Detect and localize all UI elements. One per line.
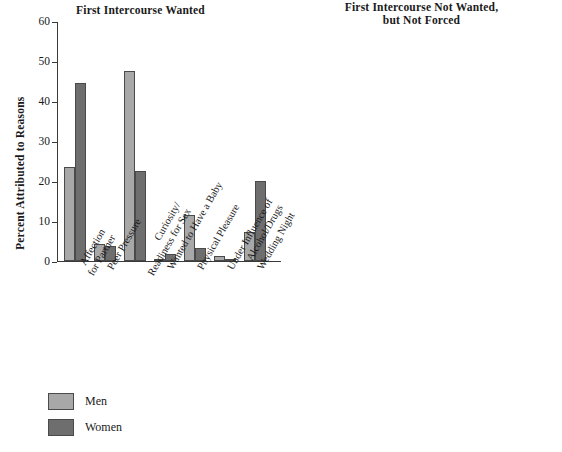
y-tick-mark	[52, 142, 57, 143]
y-tick-label: 20	[39, 176, 51, 188]
y-tick-mark	[52, 182, 57, 183]
y-tick-mark	[52, 262, 57, 263]
legend-label-women: Women	[85, 420, 122, 435]
y-tick-mark	[52, 62, 57, 63]
y-tick-label: 30	[39, 136, 51, 148]
legend-item-men: Men	[48, 388, 208, 414]
x-axis-category-labels-left: Affectionfor PartnerPeer PressureCuriosi…	[57, 266, 287, 376]
legend-label-men: Men	[85, 394, 107, 409]
legend-swatch-women	[48, 419, 74, 436]
y-tick-label: 50	[39, 56, 51, 68]
bar-women	[75, 83, 86, 261]
chart-panel-not-wanted: First Intercourse Not Wanted, but Not Fo…	[281, 0, 562, 400]
legend-item-women: Women	[48, 414, 208, 440]
y-axis-label-left: Percent Attributed to Reasons	[14, 97, 26, 250]
y-tick-label: 60	[39, 16, 51, 28]
legend-swatch-men	[48, 393, 74, 410]
y-tick-label: 0	[44, 256, 50, 268]
bar-men	[214, 256, 225, 261]
chart-title-right: First Intercourse Not Wanted, but Not Fo…	[281, 1, 562, 27]
chart-title-right-line1: First Intercourse Not Wanted,	[345, 1, 499, 13]
chart-panel-wanted: First Intercourse Wanted Percent Attribu…	[0, 0, 281, 400]
y-tick-mark	[52, 22, 57, 23]
y-tick-mark	[52, 222, 57, 223]
y-axis-line-left	[57, 22, 58, 262]
chart-title-right-line2: but Not Forced	[383, 14, 460, 26]
chart-legend: Men Women	[48, 388, 208, 440]
y-tick-label: 40	[39, 96, 51, 108]
bar-men	[64, 167, 75, 261]
y-tick-label: 10	[39, 216, 51, 228]
y-tick-mark	[52, 102, 57, 103]
